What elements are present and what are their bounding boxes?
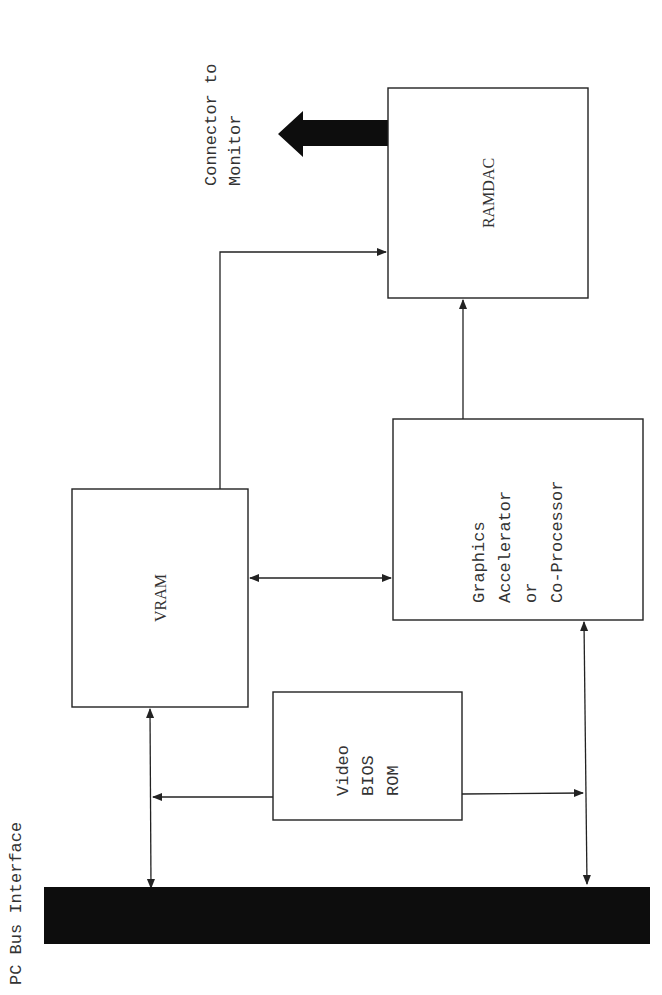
pc-bus-bar	[44, 887, 650, 944]
bios-label-line-3: ROM	[384, 765, 403, 796]
video-adapter-diagram: Connector to Monitor RAMDAC Graphics Acc…	[0, 0, 662, 995]
connector-label-line-1: Connector to	[202, 64, 221, 186]
graphics-accelerator-box[interactable]	[393, 419, 643, 620]
graphics-label-line-2: Accelerator	[496, 491, 515, 603]
ramdac-block[interactable]: RAMDAC	[388, 88, 588, 298]
vram-label: VRAM	[152, 574, 169, 622]
monitor-output-arrow	[278, 111, 388, 157]
bios-to-graphics-bus-line	[462, 793, 583, 794]
connector-label-line-2: Monitor	[226, 115, 245, 186]
graphics-label-line-3: or	[522, 583, 541, 603]
bios-label-line-1: Video	[334, 745, 353, 796]
vram-block[interactable]: VRAM	[72, 489, 248, 707]
bus-vram-connector	[150, 709, 151, 888]
graphics-label-line-1: Graphics	[470, 521, 489, 603]
bios-label-line-2: BIOS	[359, 755, 378, 796]
vram-to-ramdac-connector	[220, 252, 386, 489]
graphics-accelerator-block[interactable]: Graphics Accelerator or Co-Processor	[393, 419, 643, 620]
ramdac-label: RAMDAC	[480, 158, 497, 228]
video-bios-rom-block[interactable]: Video BIOS ROM	[273, 692, 462, 820]
pc-bus-interface-label: PC Bus Interface	[7, 822, 26, 985]
connector-label: Connector to Monitor	[202, 64, 245, 186]
graphics-label-line-4: Co-Processor	[548, 481, 567, 603]
bus-graphics-connector	[584, 622, 587, 884]
